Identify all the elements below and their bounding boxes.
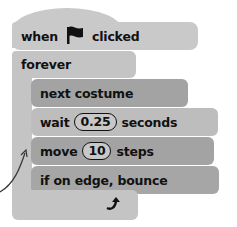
- annotation-arrow: [0, 0, 40, 200]
- hat-label-clicked: clicked: [92, 29, 139, 44]
- wait-seconds-block[interactable]: wait 0.25 seconds: [31, 108, 218, 136]
- green-flag-icon: [66, 26, 84, 47]
- wait-label: wait: [40, 115, 69, 130]
- move-label: move: [40, 144, 77, 159]
- seconds-label: seconds: [122, 115, 178, 130]
- move-steps-block[interactable]: move 10 steps: [31, 137, 214, 165]
- next-costume-block[interactable]: next costume: [31, 79, 188, 107]
- bounce-label: if on edge, bounce: [40, 173, 168, 188]
- move-steps-input[interactable]: 10: [82, 142, 111, 160]
- wait-seconds-input[interactable]: 0.25: [74, 113, 116, 131]
- annotation-arrow-line: [0, 153, 25, 192]
- loop-arrow-icon: [106, 197, 122, 214]
- steps-label: steps: [116, 144, 153, 159]
- next-costume-label: next costume: [40, 86, 133, 101]
